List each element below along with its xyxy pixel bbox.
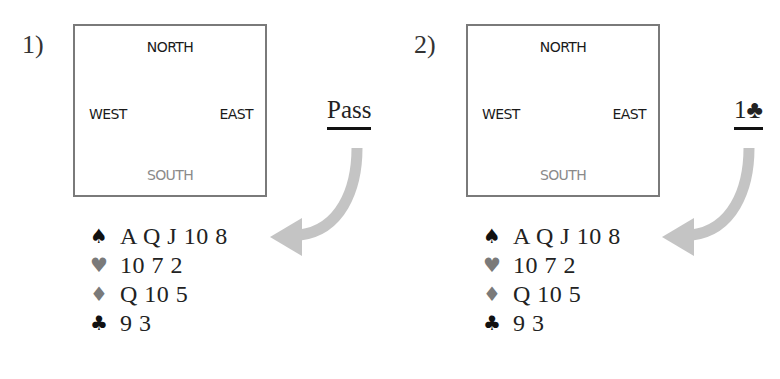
south-hand: ♠ A Q J 10 8 ♥ 10 7 2 ♦ Q 10 5 ♣ 9 3 <box>90 222 228 338</box>
curved-arrow-icon <box>652 140 762 250</box>
hand-row-spades: ♠ A Q J 10 8 <box>90 222 228 251</box>
bridge-table-diagram: NORTH WEST EAST SOUTH <box>73 24 267 197</box>
diamond-icon: ♦ <box>483 280 507 309</box>
problem-1: 1) NORTH WEST EAST SOUTH Pass ♠ A Q J 10… <box>0 0 390 379</box>
spade-cards: A Q J 10 8 <box>120 222 228 251</box>
spade-icon: ♠ <box>90 222 114 251</box>
east-label: EAST <box>613 106 646 122</box>
east-label: EAST <box>220 106 253 122</box>
diamond-cards: Q 10 5 <box>120 280 188 309</box>
problem-number: 1) <box>22 30 44 60</box>
south-label: SOUTH <box>75 167 265 183</box>
problem-number: 2) <box>414 30 436 60</box>
curved-arrow-icon <box>260 140 370 250</box>
club-cards: 9 3 <box>513 309 545 338</box>
spade-cards: A Q J 10 8 <box>513 222 621 251</box>
diamond-icon: ♦ <box>90 280 114 309</box>
hand-row-diamonds: ♦ Q 10 5 <box>483 280 621 309</box>
problem-2: 2) NORTH WEST EAST SOUTH 1♣ ♠ A Q J 10 8… <box>390 0 780 379</box>
hand-row-spades: ♠ A Q J 10 8 <box>483 222 621 251</box>
north-label: NORTH <box>75 39 265 55</box>
club-cards: 9 3 <box>120 309 152 338</box>
heart-icon: ♥ <box>90 251 114 280</box>
heart-icon: ♥ <box>483 251 507 280</box>
hand-row-hearts: ♥ 10 7 2 <box>483 251 621 280</box>
hand-row-clubs: ♣ 9 3 <box>483 309 621 338</box>
heart-cards: 10 7 2 <box>513 251 576 280</box>
hand-row-clubs: ♣ 9 3 <box>90 309 228 338</box>
east-bid: 1♣ <box>734 96 763 130</box>
heart-cards: 10 7 2 <box>120 251 183 280</box>
club-icon: ♣ <box>90 309 114 338</box>
club-icon: ♣ <box>483 309 507 338</box>
hand-row-hearts: ♥ 10 7 2 <box>90 251 228 280</box>
west-label: WEST <box>482 106 520 122</box>
east-bid: Pass <box>327 96 371 130</box>
south-label: SOUTH <box>468 167 658 183</box>
west-label: WEST <box>89 106 127 122</box>
bridge-table-diagram: NORTH WEST EAST SOUTH <box>466 24 660 197</box>
hand-row-diamonds: ♦ Q 10 5 <box>90 280 228 309</box>
spade-icon: ♠ <box>483 222 507 251</box>
south-hand: ♠ A Q J 10 8 ♥ 10 7 2 ♦ Q 10 5 ♣ 9 3 <box>483 222 621 338</box>
north-label: NORTH <box>468 39 658 55</box>
diamond-cards: Q 10 5 <box>513 280 581 309</box>
